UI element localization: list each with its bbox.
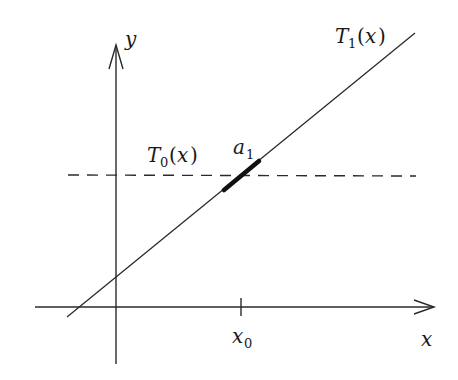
y-axis-label: y — [124, 27, 137, 51]
svg-text:x: x — [177, 143, 188, 167]
svg-text:a: a — [233, 135, 245, 159]
t0-label: T 0 ( x ) — [147, 143, 198, 170]
svg-text:(: ( — [357, 24, 365, 48]
y-axis — [109, 45, 123, 364]
t1-label: T 1 ( x ) — [335, 24, 386, 51]
svg-text:(: ( — [169, 143, 177, 167]
svg-text:0: 0 — [160, 155, 168, 170]
svg-text:x: x — [365, 24, 376, 48]
svg-text:1: 1 — [348, 36, 356, 51]
x0-label: x 0 — [232, 324, 252, 351]
a1-label: a 1 — [233, 135, 254, 162]
svg-text:): ) — [378, 24, 386, 48]
x-axis — [35, 300, 434, 314]
svg-text:x: x — [232, 324, 243, 348]
x-axis-label: x — [421, 327, 432, 351]
svg-text:1: 1 — [246, 147, 254, 162]
svg-text:): ) — [190, 143, 198, 167]
taylor-diagram: y x x 0 T 0 ( x ) T 1 ( x ) a 1 — [0, 0, 458, 380]
svg-text:0: 0 — [244, 336, 252, 351]
